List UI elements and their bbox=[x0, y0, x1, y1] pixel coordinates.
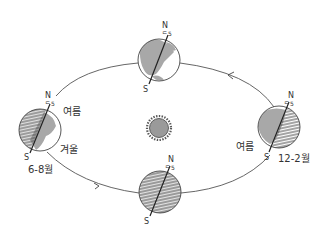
south-pole-label: S bbox=[143, 86, 148, 94]
north-pole-label: N bbox=[162, 22, 168, 30]
south-pole-label: S bbox=[144, 218, 149, 226]
axis-marker: ᄃ5 bbox=[284, 101, 294, 107]
season-label-summer: 여름 bbox=[236, 142, 254, 152]
axis-marker: ᄃ5 bbox=[165, 165, 175, 171]
month-range-label: 6-8월 bbox=[28, 165, 53, 175]
north-pole-label: N bbox=[168, 156, 174, 164]
globe-top bbox=[138, 35, 180, 84]
north-pole-label: N bbox=[45, 92, 51, 100]
axis-marker: ᄃ5 bbox=[162, 31, 172, 37]
north-pole-label: N bbox=[288, 92, 294, 100]
month-range-label: 12-2월 bbox=[278, 154, 310, 164]
south-pole-label: S bbox=[24, 154, 29, 162]
season-label-summer: 여름 bbox=[63, 107, 81, 117]
globe-left bbox=[14, 104, 61, 156]
orbit-diagram: N ᄃ5 S N ᄃ5 S 여름 겨울 6-8월 N ᄃ5 S 여름 12-2월… bbox=[0, 0, 324, 244]
season-label-winter: 겨울 bbox=[60, 145, 78, 155]
globe-right bbox=[258, 102, 305, 152]
sun-icon bbox=[147, 116, 171, 140]
south-pole-label: S bbox=[264, 154, 269, 162]
axis-marker: ᄃ5 bbox=[45, 101, 55, 107]
globe-bottom bbox=[136, 166, 186, 216]
